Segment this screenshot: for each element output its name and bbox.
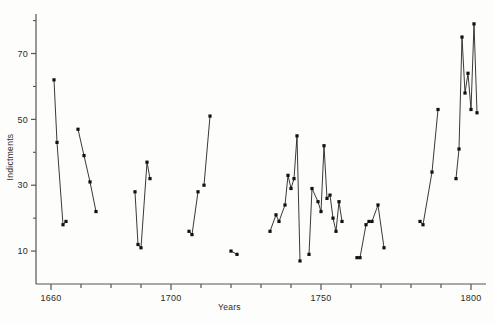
data-point-marker [436, 108, 439, 111]
data-point-marker [94, 210, 97, 213]
data-point-marker [466, 72, 469, 75]
x-tick-label: 1700 [161, 293, 182, 303]
data-point-marker [364, 223, 367, 226]
y-tick-label: 50 [18, 115, 28, 125]
data-point-marker [337, 200, 340, 203]
data-line [456, 24, 477, 179]
data-point-marker [277, 220, 280, 223]
data-line [270, 136, 300, 261]
data-point-marker [235, 253, 238, 256]
data-point-marker [136, 243, 139, 246]
data-point-marker [133, 190, 136, 193]
data-segment [307, 144, 343, 256]
data-segment [52, 78, 67, 226]
data-point-marker [418, 220, 421, 223]
data-line [78, 129, 96, 211]
data-point-marker [64, 220, 67, 223]
line-chart-plot: 103050701660170017501800 [0, 0, 494, 324]
data-line [189, 192, 198, 235]
data-point-marker [289, 187, 292, 190]
y-tick-label: 10 [18, 246, 28, 256]
data-point-marker [457, 147, 460, 150]
data-point-marker [190, 233, 193, 236]
chart-container: 103050701660170017501800 Indictments Yea… [0, 0, 494, 324]
data-point-marker [88, 180, 91, 183]
data-point-marker [187, 230, 190, 233]
y-axis-label: Indictments [5, 121, 15, 193]
data-point-marker [139, 246, 142, 249]
data-point-marker [322, 144, 325, 147]
data-segment [133, 161, 151, 250]
data-point-marker [196, 190, 199, 193]
data-line [204, 116, 210, 185]
data-point-marker [82, 154, 85, 157]
data-point-marker [298, 259, 301, 262]
data-point-marker [55, 141, 58, 144]
data-point-marker [355, 256, 358, 259]
data-point-marker [376, 203, 379, 206]
data-line [420, 109, 438, 224]
data-line [54, 80, 66, 225]
data-segment [268, 134, 301, 262]
data-point-marker [331, 217, 334, 220]
data-point-marker [454, 177, 457, 180]
data-point-marker [460, 35, 463, 38]
data-point-marker [469, 108, 472, 111]
x-tick-label: 1800 [461, 293, 482, 303]
data-point-marker [463, 91, 466, 94]
data-segment [454, 22, 478, 180]
data-point-marker [283, 203, 286, 206]
data-point-marker [268, 230, 271, 233]
data-segment [355, 203, 385, 259]
data-line [135, 162, 150, 248]
data-point-marker [208, 114, 211, 117]
data-point-marker [148, 177, 151, 180]
data-point-marker [475, 111, 478, 114]
data-point-marker [202, 184, 205, 187]
data-point-marker [421, 223, 424, 226]
data-point-marker [310, 187, 313, 190]
x-tick-label: 1750 [311, 293, 332, 303]
data-point-marker [61, 223, 64, 226]
data-line [357, 205, 384, 258]
data-point-marker [274, 213, 277, 216]
data-point-marker [430, 170, 433, 173]
data-point-marker [286, 174, 289, 177]
data-point-marker [145, 161, 148, 164]
data-segment [202, 114, 211, 186]
data-segment [229, 249, 238, 256]
data-point-marker [52, 78, 55, 81]
data-point-marker [316, 200, 319, 203]
y-tick-label: 30 [18, 180, 28, 190]
data-segment [76, 128, 97, 214]
data-point-marker [229, 249, 232, 252]
data-point-marker [358, 256, 361, 259]
data-point-marker [292, 177, 295, 180]
data-point-marker [340, 220, 343, 223]
data-point-marker [472, 22, 475, 25]
data-point-marker [325, 197, 328, 200]
data-segment [187, 190, 199, 236]
x-tick-label: 1660 [41, 293, 62, 303]
data-point-marker [382, 246, 385, 249]
data-point-marker [307, 253, 310, 256]
data-point-marker [334, 230, 337, 233]
y-axis-label-wrapper: Indictments [2, 0, 16, 324]
y-tick-label: 70 [18, 49, 28, 59]
data-point-marker [370, 220, 373, 223]
data-point-marker [367, 220, 370, 223]
data-point-marker [295, 134, 298, 137]
data-point-marker [328, 194, 331, 197]
data-point-marker [76, 128, 79, 131]
x-axis-label: Years [218, 302, 241, 312]
data-segment [418, 108, 439, 226]
data-point-marker [319, 210, 322, 213]
data-line [309, 146, 342, 255]
